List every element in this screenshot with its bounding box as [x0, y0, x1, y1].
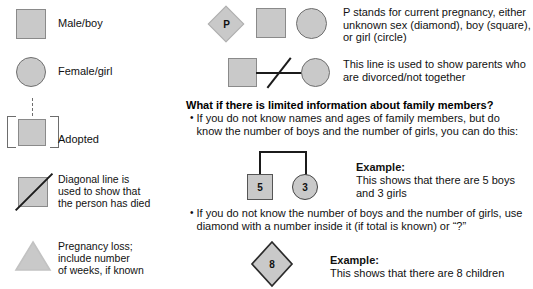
limited-info-heading: What if there is limited information abo… — [186, 99, 493, 112]
sibship-drop-line-right — [305, 151, 307, 175]
bullet-item-2: • If you do not know the number of boys … — [190, 207, 530, 232]
pregnancy-diamond-symbol: P — [208, 6, 245, 43]
bullet-text-2: If you do not know the number of boys an… — [197, 207, 523, 232]
female-circle-symbol — [16, 57, 46, 87]
adoption-dashed-line — [32, 98, 33, 116]
adoption-bracket-left — [7, 116, 16, 148]
deceased-symbol — [10, 168, 62, 218]
diamond-example-text: This shows that there are 8 children — [330, 267, 504, 280]
pregnancy-circle-symbol — [296, 8, 327, 39]
bullet-marker-1: • — [190, 112, 194, 125]
legend-label-adopted: Adopted — [58, 133, 99, 146]
sibship-square-count: 5 — [248, 175, 272, 199]
pregnancy-loss-triangle-symbol — [14, 240, 52, 272]
divorce-square — [228, 58, 257, 87]
male-square-symbol — [16, 9, 46, 39]
legend-label-female: Female/girl — [58, 65, 112, 78]
pedigree-legend-page: Male/boy Female/girl Adopted Diagonal li… — [0, 0, 533, 289]
sibship-example-text: This shows that there are 5 boys and 3 g… — [356, 174, 533, 199]
legend-label-male: Male/boy — [58, 17, 103, 30]
bullet-item-1: • If you do not know names and ages of f… — [190, 112, 530, 137]
sibship-circle-count: 3 — [293, 175, 317, 199]
diamond-example-label: Example: — [330, 254, 379, 267]
legend-label-pregnancy-loss: Pregnancy loss; include number of weeks,… — [58, 240, 144, 277]
pregnancy-square-symbol — [256, 8, 286, 38]
legend-label-deceased: Diagonal line is used to show that the p… — [58, 173, 150, 210]
bullet-marker-2: • — [190, 207, 194, 220]
pregnancy-description: P stands for current pregnancy, either u… — [343, 6, 533, 44]
diamond-children-count: 8 — [249, 239, 295, 289]
divorce-relationship-symbol — [228, 53, 333, 95]
divorce-description: This line is used to show parents who ar… — [343, 58, 533, 83]
sibship-square: 5 — [247, 174, 273, 200]
sibship-circle: 3 — [292, 174, 318, 200]
sibship-horizontal-line — [259, 151, 307, 153]
sibship-example-diagram: 5 3 — [243, 150, 335, 200]
sibship-example-label: Example: — [356, 161, 405, 174]
adopted-symbol — [6, 98, 62, 150]
pregnancy-diamond-letter: P — [208, 6, 245, 43]
unknown-sibship-diamond-symbol: 8 — [249, 239, 295, 289]
divorce-circle — [301, 58, 330, 87]
triangle-icon — [14, 240, 52, 272]
sibship-drop-line-left — [259, 151, 261, 175]
bullet-text-1: If you do not know names and ages of fam… — [197, 112, 519, 137]
adopted-square — [18, 119, 46, 146]
